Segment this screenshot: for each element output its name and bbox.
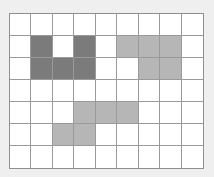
grid-cell-r3-c6[interactable] <box>117 58 138 80</box>
grid-cell-r2-c6[interactable] <box>117 36 138 58</box>
grid-cell-r4-c5[interactable] <box>96 80 117 102</box>
grid-cell-r1-c8[interactable] <box>160 14 181 36</box>
grid-cell-r3-c9[interactable] <box>182 58 203 80</box>
grid-cell-r7-c7[interactable] <box>139 146 160 168</box>
grid-cell-r6-c9[interactable] <box>182 124 203 146</box>
grid-cell-r6-c3[interactable] <box>53 124 74 146</box>
grid-cell-r6-c6[interactable] <box>117 124 138 146</box>
grid-cell-r7-c3[interactable] <box>53 146 74 168</box>
grid-cell-r5-c1[interactable] <box>10 102 31 124</box>
grid-cell-r6-c5[interactable] <box>96 124 117 146</box>
grid-cell-r5-c6[interactable] <box>117 102 138 124</box>
grid-cell-r4-c1[interactable] <box>10 80 31 102</box>
grid-cell-r4-c6[interactable] <box>117 80 138 102</box>
grid-cell-r2-c9[interactable] <box>182 36 203 58</box>
grid-cell-r5-c5[interactable] <box>96 102 117 124</box>
grid-cell-r7-c9[interactable] <box>182 146 203 168</box>
grid-cell-r7-c8[interactable] <box>160 146 181 168</box>
grid-cell-r1-c4[interactable] <box>74 14 95 36</box>
grid-cell-r7-c4[interactable] <box>74 146 95 168</box>
grid-cell-r1-c9[interactable] <box>182 14 203 36</box>
grid-cell-r1-c2[interactable] <box>31 14 52 36</box>
grid-cell-r5-c2[interactable] <box>31 102 52 124</box>
grid-cell-r6-c1[interactable] <box>10 124 31 146</box>
grid-cell-r2-c4[interactable] <box>74 36 95 58</box>
grid-cell-r4-c3[interactable] <box>53 80 74 102</box>
grid-cell-r2-c3[interactable] <box>53 36 74 58</box>
grid-cell-r7-c5[interactable] <box>96 146 117 168</box>
grid-cell-r5-c8[interactable] <box>160 102 181 124</box>
grid-cell-r4-c9[interactable] <box>182 80 203 102</box>
grid-cell-r7-c2[interactable] <box>31 146 52 168</box>
grid-cell-r3-c1[interactable] <box>10 58 31 80</box>
grid-cell-r5-c3[interactable] <box>53 102 74 124</box>
grid-cell-r3-c5[interactable] <box>96 58 117 80</box>
grid-cell-r4-c2[interactable] <box>31 80 52 102</box>
grid-cell-r5-c9[interactable] <box>182 102 203 124</box>
grid-cell-r4-c7[interactable] <box>139 80 160 102</box>
grid-cell-r2-c1[interactable] <box>10 36 31 58</box>
grid-cell-r4-c4[interactable] <box>74 80 95 102</box>
grid-cell-r3-c4[interactable] <box>74 58 95 80</box>
grid-cell-r5-c4[interactable] <box>74 102 95 124</box>
grid-cell-r2-c5[interactable] <box>96 36 117 58</box>
grid-cell-r7-c1[interactable] <box>10 146 31 168</box>
grid-cell-r2-c8[interactable] <box>160 36 181 58</box>
grid-cell-r6-c4[interactable] <box>74 124 95 146</box>
grid-cell-r6-c7[interactable] <box>139 124 160 146</box>
grid-cell-r6-c8[interactable] <box>160 124 181 146</box>
grid-cell-r2-c7[interactable] <box>139 36 160 58</box>
grid-cell-r3-c7[interactable] <box>139 58 160 80</box>
grid-cell-r7-c6[interactable] <box>117 146 138 168</box>
grid-cell-r3-c8[interactable] <box>160 58 181 80</box>
grid-cell-r3-c2[interactable] <box>31 58 52 80</box>
grid-cell-r1-c7[interactable] <box>139 14 160 36</box>
grid-cell-r2-c2[interactable] <box>31 36 52 58</box>
grid-cell-r3-c3[interactable] <box>53 58 74 80</box>
grid-cell-r4-c8[interactable] <box>160 80 181 102</box>
grid-cell-r1-c5[interactable] <box>96 14 117 36</box>
grid-cell-r1-c3[interactable] <box>53 14 74 36</box>
grid-cell-r5-c7[interactable] <box>139 102 160 124</box>
grid-cell-r6-c2[interactable] <box>31 124 52 146</box>
grid-cell-r1-c6[interactable] <box>117 14 138 36</box>
puzzle-grid <box>9 13 204 169</box>
grid-cell-r1-c1[interactable] <box>10 14 31 36</box>
